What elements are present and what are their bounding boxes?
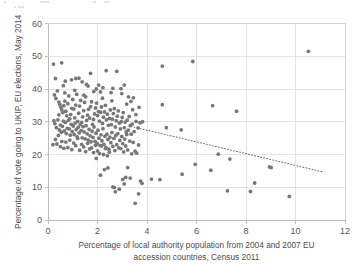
scatter-point <box>119 87 123 91</box>
y-tick-label: 20 <box>32 150 42 160</box>
scatter-point <box>63 79 67 83</box>
scatter-point <box>108 135 112 139</box>
y-tick-label: 10 <box>32 182 42 192</box>
scatter-point <box>117 187 121 191</box>
scatter-point <box>164 126 168 130</box>
scatter-point <box>116 109 120 113</box>
scatter-point <box>137 105 141 109</box>
scatter-point <box>122 182 126 186</box>
scatter-point <box>82 93 86 97</box>
scatter-point <box>68 138 72 142</box>
scatter-point <box>115 114 119 118</box>
scatter-point <box>127 115 131 119</box>
scatter-point <box>123 137 127 141</box>
scatter-point <box>52 119 56 123</box>
scatter-point <box>109 123 113 127</box>
scatter-point <box>113 149 117 153</box>
scatter-point <box>126 128 130 132</box>
scatter-point <box>63 99 67 103</box>
scatter-point <box>160 64 164 68</box>
scatter-point <box>89 71 93 75</box>
scatter-point <box>115 143 119 147</box>
scatter-point <box>92 125 96 129</box>
y-axis-title: Percentage of vote going to UKIP, EU ele… <box>13 14 23 229</box>
scatter-point <box>67 94 71 98</box>
scatter-point <box>68 133 72 137</box>
scatter-point <box>66 119 70 123</box>
scatter-point <box>99 90 103 94</box>
scatter-point <box>74 77 78 81</box>
scatter-point <box>82 145 86 149</box>
scatter-point <box>141 120 145 124</box>
scatter-point <box>108 108 112 112</box>
scatter-point <box>84 150 88 154</box>
x-axis-title-line1: Percentage of local authority population… <box>78 240 314 250</box>
scatter-point <box>72 133 76 137</box>
y-tick-label: 50 <box>32 51 42 61</box>
scatter-point <box>120 135 124 139</box>
chart-background <box>0 0 363 266</box>
scatter-point <box>306 49 310 53</box>
scatter-point <box>100 105 104 109</box>
scatter-point <box>70 78 74 82</box>
scatter-point <box>105 132 109 136</box>
scatter-point <box>77 111 81 115</box>
scatter-point <box>228 157 232 161</box>
scatter-point <box>128 139 132 143</box>
scatter-point <box>110 117 114 121</box>
scatter-point <box>133 201 137 205</box>
scatter-point <box>137 192 141 196</box>
scatter-point <box>74 103 78 107</box>
scatter-point <box>253 181 257 185</box>
scatter-point <box>131 96 135 100</box>
scatter-point <box>90 146 94 150</box>
scatter-point <box>106 166 110 170</box>
scatter-point <box>79 99 83 103</box>
scatter-point <box>73 121 77 125</box>
scatter-point <box>66 146 70 150</box>
scatter-point <box>129 132 133 136</box>
scatter-point <box>150 177 154 181</box>
scatter-point <box>98 152 102 156</box>
scatter-point <box>81 115 85 119</box>
scatter-point <box>70 148 74 152</box>
scatter-point <box>100 139 104 143</box>
x-tick-label: 12 <box>340 226 350 236</box>
scatter-point <box>62 104 66 108</box>
scatter-point <box>88 116 92 120</box>
scatter-point <box>126 148 130 152</box>
scatter-point <box>131 108 135 112</box>
scatter-point <box>104 69 108 73</box>
scatter-point <box>83 101 87 105</box>
scatter-point <box>125 102 129 106</box>
scatter-point <box>179 128 183 132</box>
scatter-point <box>158 178 162 182</box>
scatter-point <box>94 143 98 147</box>
scatter-point <box>51 143 55 147</box>
scatter-point <box>96 128 100 132</box>
scatter-point <box>69 113 73 117</box>
scatter-point <box>111 144 115 148</box>
scatter-point <box>60 140 64 144</box>
scatter-point <box>109 141 113 145</box>
scatter-point <box>106 112 110 116</box>
scatter-point <box>191 60 195 64</box>
x-tick-label: 0 <box>45 226 50 236</box>
scatter-point <box>128 176 132 180</box>
scatter-point <box>56 134 60 138</box>
scatter-point <box>119 147 123 151</box>
y-tick-label: 0 <box>37 215 42 225</box>
scatter-point <box>99 133 103 137</box>
scatter-point <box>91 136 95 140</box>
scatter-point <box>106 154 110 158</box>
scatter-point <box>101 127 105 131</box>
scatter-point <box>89 140 93 144</box>
scatter-point <box>119 120 123 124</box>
scatter-point <box>111 112 115 116</box>
scatter-point <box>78 148 82 152</box>
scatter-point <box>54 77 58 81</box>
scatter-point <box>86 141 90 145</box>
scatter-point <box>226 189 230 193</box>
scatter-point <box>125 118 129 122</box>
scatter-point <box>97 83 101 87</box>
